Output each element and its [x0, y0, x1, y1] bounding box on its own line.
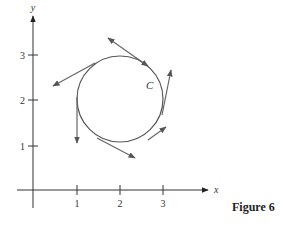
- tangent-arrow-upper-left: [53, 63, 95, 86]
- y-tick-label-2: 2: [20, 95, 25, 106]
- tangent-arrow-right: [162, 70, 171, 115]
- tangent-vectors: [53, 38, 171, 158]
- y-tick-label-1: 1: [20, 141, 25, 152]
- axes: [17, 16, 208, 208]
- y-axis-label: y: [30, 2, 36, 13]
- x-tick-label-1: 1: [75, 198, 80, 209]
- y-tick-label-3: 3: [20, 50, 25, 61]
- x-tick-label-3: 3: [161, 198, 166, 209]
- curve-c: [77, 56, 163, 142]
- x-tick-label-2: 2: [118, 198, 123, 209]
- tangent-arrow-top-right: [136, 58, 148, 66]
- figure-canvas: 1 2 3 1 2 3 x y C Figure 6: [0, 0, 298, 228]
- x-axis-label: x: [213, 184, 219, 195]
- figure-caption: Figure 6: [232, 200, 275, 214]
- curve-label: C: [146, 79, 154, 91]
